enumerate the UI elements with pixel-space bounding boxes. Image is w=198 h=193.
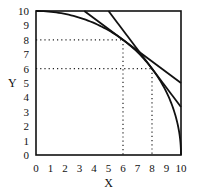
y-tick-label: 7 bbox=[24, 48, 30, 60]
x-tick-label: 9 bbox=[164, 162, 170, 174]
y-tick-label: 6 bbox=[24, 63, 30, 75]
y-tick-label: 3 bbox=[24, 106, 30, 118]
chart: 012345678910012345678910XY bbox=[0, 0, 198, 193]
x-tick-label: 2 bbox=[62, 162, 68, 174]
tangent-line bbox=[109, 11, 182, 107]
x-tick-label: 1 bbox=[48, 162, 54, 174]
x-tick-label: 5 bbox=[106, 162, 112, 174]
y-tick-label: 1 bbox=[24, 135, 30, 147]
y-tick-label: 0 bbox=[24, 149, 30, 161]
curve-quarter-circle bbox=[36, 11, 181, 155]
x-tick-label: 4 bbox=[91, 162, 97, 174]
x-axis-label: X bbox=[104, 176, 113, 190]
x-tick-label: 6 bbox=[120, 162, 126, 174]
y-tick-label: 8 bbox=[24, 34, 30, 46]
x-tick-label: 3 bbox=[77, 162, 83, 174]
plot-frame bbox=[36, 11, 181, 155]
x-tick-label: 0 bbox=[33, 162, 39, 174]
x-tick-label: 10 bbox=[176, 162, 188, 174]
tangent-line bbox=[84, 11, 181, 83]
y-axis-label: Y bbox=[8, 76, 17, 90]
y-tick-label: 4 bbox=[24, 91, 30, 103]
x-tick-label: 7 bbox=[135, 162, 141, 174]
y-tick-label: 9 bbox=[24, 19, 30, 31]
y-tick-label: 2 bbox=[24, 120, 30, 132]
y-tick-label: 5 bbox=[24, 77, 30, 89]
x-tick-label: 8 bbox=[149, 162, 155, 174]
y-tick-label: 10 bbox=[18, 5, 30, 17]
